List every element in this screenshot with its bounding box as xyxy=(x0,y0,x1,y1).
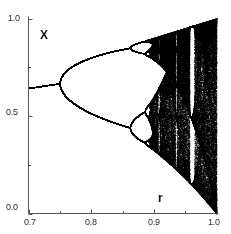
y-tick-label-0-5: 0.5 xyxy=(6,108,18,117)
bifurcation-diagram-figure: 1.0 0.5 0.0 0.7 0.8 0.9 1.0 X r xyxy=(0,0,231,234)
x-tick-label-0-8: 0.8 xyxy=(85,218,97,227)
y-axis-name-label: X xyxy=(40,29,48,41)
bifurcation-plot-canvas xyxy=(0,0,231,234)
x-tick-label-1-0: 1.0 xyxy=(208,218,220,227)
x-tick-label-0-7: 0.7 xyxy=(24,218,36,227)
x-tick-label-0-9: 0.9 xyxy=(148,218,160,227)
y-tick-label-1: 1.0 xyxy=(8,14,20,23)
y-tick-label-0: 0.0 xyxy=(6,203,18,212)
x-axis-name-label: r xyxy=(158,192,163,204)
